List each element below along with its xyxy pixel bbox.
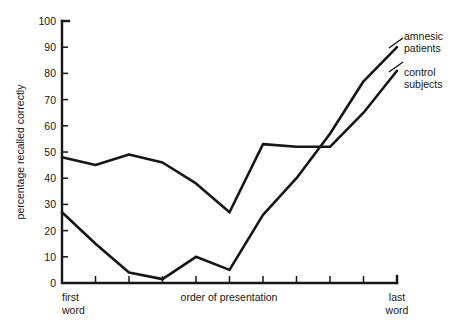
y-tick-label: 40 [44,172,56,184]
y-tick-label: 100 [38,15,56,27]
y-tick-label: 60 [44,120,56,132]
y-tick-label: 70 [44,94,56,106]
x-start-label-line1: first [62,291,79,303]
y-tick-label: 10 [44,251,56,263]
y-tick-label: 30 [44,198,56,210]
legend-entry-amnesic-line2: patients [404,42,441,54]
legend-entry-amnesic-line1: amnesic [404,30,443,42]
x-end-label-line1: last [389,291,405,303]
y-tick-label: 50 [44,146,56,158]
serial-position-chart: percentage recalled correctly 100 90 80 … [0,0,456,336]
y-tick-label: 80 [44,67,56,79]
x-end-label-line2: word [385,304,409,316]
legend: amnesic patients control subjects [404,30,443,90]
series-line-control-subjects [62,71,397,213]
y-tick-label: 20 [44,225,56,237]
y-tick-labels: 100 90 80 70 60 50 40 30 20 10 0 [38,15,56,289]
x-axis-title: order of presentation [181,291,278,303]
legend-entry-control-line1: control [404,66,436,78]
x-axis-start-label: first word [61,291,85,316]
y-tick-label: 0 [50,277,56,289]
y-axis-title: percentage recalled correctly [14,84,26,220]
x-axis-end-label: last word [385,291,409,316]
chart-canvas: percentage recalled correctly 100 90 80 … [0,0,456,336]
legend-entry-control-line2: subjects [404,78,443,90]
x-start-label-line2: word [61,304,85,316]
series-line-amnesic-patients [62,47,397,279]
axis-lines [62,21,397,283]
y-tick-label: 90 [44,41,56,53]
